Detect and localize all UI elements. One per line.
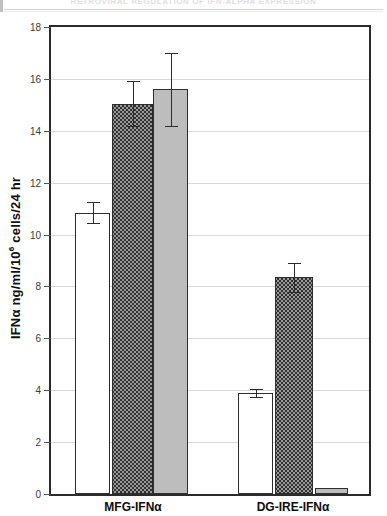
y-axis-title-prefix: IFNα ng/ml/10 bbox=[8, 251, 23, 339]
y-axis-title: IFNα ng/ml/106 cells/24 hr bbox=[7, 98, 22, 418]
bar-edge-guide bbox=[110, 434, 111, 494]
y-axis-tick-label: 10 bbox=[30, 229, 41, 240]
y-axis-title-suffix: cells/24 hr bbox=[8, 177, 23, 247]
error-bar bbox=[256, 389, 257, 397]
y-axis-tick-label: 4 bbox=[35, 385, 41, 396]
error-bar bbox=[171, 53, 172, 126]
error-bar-cap-upper bbox=[250, 389, 263, 390]
y-axis-tick-label: 6 bbox=[35, 333, 41, 344]
chart-plot-area: 024681012141618 bbox=[49, 25, 371, 496]
error-bar bbox=[133, 81, 134, 125]
y-axis-tick bbox=[44, 286, 51, 287]
header-rule bbox=[4, 9, 383, 10]
gridline bbox=[51, 131, 369, 132]
bar-edge-guide bbox=[273, 434, 274, 494]
y-axis-tick-label: 14 bbox=[30, 125, 41, 136]
bar-DGIREIFN-open bbox=[238, 393, 273, 494]
bar-DGIREIFN-solid bbox=[315, 488, 348, 494]
y-axis-tick bbox=[44, 442, 51, 443]
bar-DGIREIFN-hatched bbox=[275, 277, 313, 494]
y-axis-title-superscript: 6 bbox=[7, 247, 16, 252]
error-bar-cap-upper bbox=[165, 53, 178, 54]
y-axis-tick-label: 8 bbox=[35, 281, 41, 292]
y-axis-tick bbox=[44, 390, 51, 391]
y-axis-tick bbox=[44, 235, 51, 236]
error-bar-cap-lower bbox=[127, 126, 140, 127]
chart-plot-inner: 024681012141618 bbox=[51, 27, 369, 494]
y-axis-title-wrap: IFNα ng/ml/106 cells/24 hr bbox=[2, 0, 28, 516]
bar-MFGIFN-hatched bbox=[112, 104, 153, 494]
bar-MFGIFN-solid bbox=[153, 89, 188, 494]
y-axis-tick bbox=[44, 27, 51, 28]
x-axis-group-label: DG-IRE-IFNα bbox=[257, 500, 330, 514]
y-axis-tick-label: 2 bbox=[35, 437, 41, 448]
bar-edge-guide bbox=[75, 434, 76, 494]
y-axis-tick-label: 16 bbox=[30, 73, 41, 84]
error-bar-cap-lower bbox=[288, 292, 301, 293]
y-axis-tick bbox=[44, 338, 51, 339]
y-axis-tick-label: 0 bbox=[35, 489, 41, 500]
y-axis-tick bbox=[44, 131, 51, 132]
error-bar-cap-lower bbox=[87, 223, 100, 224]
error-bar-cap-upper bbox=[288, 263, 301, 264]
error-bar bbox=[93, 202, 94, 223]
x-axis-group-label: MFG-IFNα bbox=[104, 500, 161, 514]
gridline bbox=[51, 183, 369, 184]
y-axis-tick bbox=[44, 494, 51, 495]
error-bar-cap-upper bbox=[87, 202, 100, 203]
y-axis-tick-label: 12 bbox=[30, 177, 41, 188]
bar-edge-guide bbox=[238, 434, 239, 494]
y-axis-tick bbox=[44, 79, 51, 80]
y-axis-tick bbox=[44, 183, 51, 184]
running-head-text: RETROVIRAL REGULATION OF IFN-ALPHA EXPRE… bbox=[71, 0, 317, 6]
y-axis-tick-label: 18 bbox=[30, 22, 41, 33]
error-bar-cap-lower bbox=[250, 397, 263, 398]
error-bar-cap-lower bbox=[165, 126, 178, 127]
bar-edge-guide bbox=[348, 434, 349, 494]
error-bar bbox=[294, 263, 295, 292]
error-bar-cap-upper bbox=[127, 81, 140, 82]
gridline bbox=[51, 79, 369, 80]
header-rule-shadow bbox=[4, 11, 383, 12]
bar-MFGIFN-open bbox=[75, 213, 110, 494]
